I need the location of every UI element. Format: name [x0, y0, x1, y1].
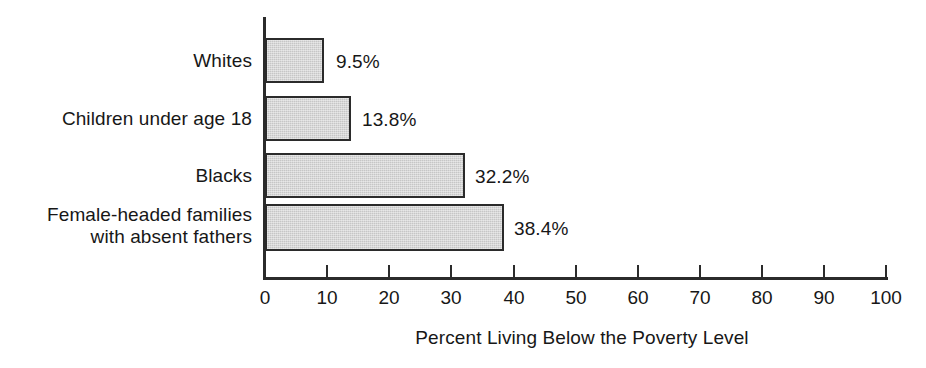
x-axis-tick-30: [450, 265, 452, 278]
value-label-female-headed-families: 38.4%: [514, 219, 568, 238]
category-label-female-headed-families: Female-headed families with absent fathe…: [10, 204, 252, 248]
x-axis-tick-label-60: 60: [608, 288, 668, 307]
category-label-blacks: Blacks: [10, 165, 252, 187]
x-axis-tick-label-30: 30: [421, 288, 481, 307]
bar-children-under-age-18: [265, 96, 351, 141]
x-axis-tick-label-40: 40: [484, 288, 544, 307]
x-axis-title: Percent Living Below the Poverty Level: [382, 327, 782, 348]
x-axis-tick-label-20: 20: [359, 288, 419, 307]
bar-blacks: [265, 153, 465, 198]
x-axis-tick-100: [885, 265, 887, 278]
x-axis-tick-0: [264, 265, 266, 278]
bar-whites: [265, 38, 324, 83]
x-axis-tick-label-0: 0: [235, 288, 295, 307]
x-axis-tick-10: [326, 265, 328, 278]
y-axis-line: [263, 17, 266, 280]
x-axis-tick-label-70: 70: [670, 288, 730, 307]
value-label-blacks: 32.2%: [475, 167, 529, 186]
x-axis-tick-80: [761, 265, 763, 278]
bar-chart: Whites Children under age 18 Blacks Fema…: [0, 0, 926, 368]
x-axis-tick-label-90: 90: [794, 288, 854, 307]
x-axis-tick-90: [823, 265, 825, 278]
category-label-whites: Whites: [10, 50, 252, 72]
x-axis-tick-60: [637, 265, 639, 278]
bar-female-headed-families: [265, 204, 504, 251]
value-label-children-under-age-18: 13.8%: [362, 110, 416, 129]
x-axis-tick-label-100: 100: [856, 288, 916, 307]
x-axis-tick-label-50: 50: [546, 288, 606, 307]
x-axis-tick-50: [575, 265, 577, 278]
x-axis-tick-label-80: 80: [732, 288, 792, 307]
x-axis-tick-70: [699, 265, 701, 278]
x-axis-tick-40: [513, 265, 515, 278]
value-label-whites: 9.5%: [336, 52, 380, 71]
x-axis-tick-label-10: 10: [297, 288, 357, 307]
category-label-children-under-age-18: Children under age 18: [10, 108, 252, 130]
x-axis-tick-20: [388, 265, 390, 278]
